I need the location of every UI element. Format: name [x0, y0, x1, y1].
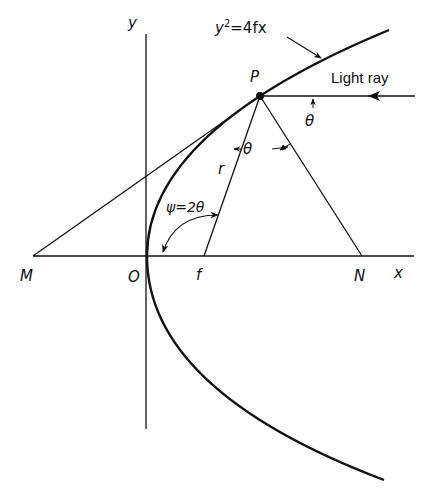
- point-P-dot: [256, 92, 264, 100]
- parabola-diagram: y x y2=4fx P Light ray θ θ r ψ=2θ M O f …: [0, 0, 431, 497]
- point-N-label: N: [354, 267, 365, 285]
- theta-incident-label: θ: [305, 112, 314, 130]
- y-axis-label: y: [127, 14, 138, 32]
- parabola-curve: [147, 30, 389, 480]
- theta-between-label: θ: [243, 140, 252, 158]
- focal-radius-r: [204, 96, 260, 256]
- point-P-label: P: [250, 68, 260, 86]
- equation-label: y2=4fx: [214, 18, 267, 37]
- x-axis-label: x: [393, 264, 403, 282]
- theta-between-arrow-right: [272, 147, 288, 149]
- point-M-label: M: [20, 267, 33, 285]
- equation-pointer-arrow: [287, 37, 321, 58]
- psi-angle-arc: [163, 215, 218, 252]
- psi-angle-label: ψ=2θ: [166, 199, 205, 215]
- origin-O-label: O: [128, 268, 140, 286]
- segment-r-label: r: [218, 160, 225, 178]
- light-ray-label: Light ray: [331, 69, 389, 86]
- focus-f-label: f: [196, 266, 204, 284]
